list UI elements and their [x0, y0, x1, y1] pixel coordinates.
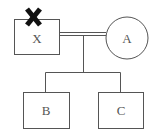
- pedigree-diagram: X A B C: [0, 0, 159, 139]
- deceased-cross-icon: [27, 9, 40, 25]
- label-b: B: [42, 103, 51, 118]
- label-c: C: [117, 103, 126, 118]
- label-x: X: [32, 31, 42, 46]
- label-a: A: [122, 31, 132, 46]
